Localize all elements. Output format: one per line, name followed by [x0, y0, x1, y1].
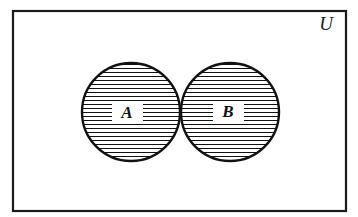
set-a-label: A [120, 103, 132, 122]
venn-figure-canvas: A B U [0, 0, 358, 217]
set-b-label: B [221, 102, 233, 121]
venn-diagram-svg: A B U [0, 0, 358, 217]
universal-set-label: U [319, 13, 334, 34]
